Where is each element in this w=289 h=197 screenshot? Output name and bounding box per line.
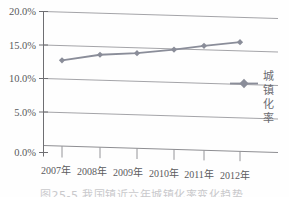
y-tick-label-0: 0.0% (14, 147, 36, 158)
legend-label-char-3: 率 (263, 111, 274, 125)
x-tick-label-2011: 2011年 (184, 168, 214, 180)
figure-container: 20.0% 15.0% 10.0% 5.0% 0.0% 2007年 2008年 … (0, 0, 289, 197)
y-tick-label-20: 20.0% (9, 6, 36, 17)
y-tick-label-10: 10.0% (9, 73, 36, 84)
legend-label-char-2: 化 (263, 97, 274, 111)
y-tick-label-15: 15.0% (9, 40, 36, 51)
legend-label-char-0: 城 (263, 70, 274, 83)
figure-caption: 图25-5 我国镇近六年城镇化率变化趋势 (40, 186, 260, 197)
y-tick-label-5: 5.0% (14, 107, 36, 118)
x-tick-label-2010: 2010年 (149, 167, 179, 179)
line-chart: 20.0% 15.0% 10.0% 5.0% 0.0% 2007年 2008年 … (0, 0, 289, 197)
legend-label-char-1: 镇 (263, 83, 274, 97)
x-tick-label-2009: 2009年 (113, 166, 143, 178)
x-tick-label-2012: 2012年 (220, 169, 250, 181)
x-tick-label-2007: 2007年 (41, 164, 71, 176)
x-tick-label-2008: 2008年 (77, 165, 107, 177)
